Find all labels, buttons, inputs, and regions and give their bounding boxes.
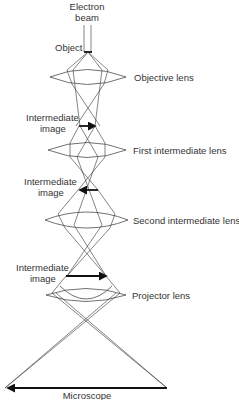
electron-beam-label-1: Electron — [70, 1, 105, 12]
microscope-diagram: Electron beam Object Objective lens Inte… — [0, 0, 239, 400]
intermediate-image-2-label-2: image — [38, 187, 64, 198]
intermediate-image-3-label-2: image — [30, 273, 56, 284]
intermediate-image-2-label-1: Intermediate — [24, 176, 77, 187]
second-intermediate-lens — [45, 212, 128, 228]
first-intermediate-lens-label: First intermediate lens — [133, 145, 227, 156]
projector-lens-label: Projector lens — [132, 290, 190, 301]
intermediate-image-1-label-1: Intermediate — [26, 112, 79, 123]
electron-beam-label-2: beam — [75, 12, 99, 23]
first-intermediate-lens — [48, 143, 126, 158]
intermediate-image-3-label-1: Intermediate — [16, 262, 69, 273]
second-intermediate-lens-label: Second intermediate lens — [133, 215, 239, 226]
objective-lens — [50, 70, 126, 85]
intermediate-image-1-label-2: image — [40, 123, 66, 134]
objective-lens-label: Objective lens — [134, 72, 194, 83]
electron-beam — [84, 25, 91, 52]
final-image-label: Microscope — [63, 390, 112, 400]
projector-lens-inner — [60, 286, 112, 299]
object-label: Object — [55, 42, 83, 53]
